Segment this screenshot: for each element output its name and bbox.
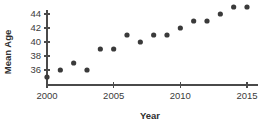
data-point	[191, 18, 196, 23]
y-tick-label: 38	[30, 50, 41, 61]
y-tick-label: 42	[30, 22, 41, 33]
y-axis: 3638404244	[30, 8, 50, 85]
x-tick-label: 2015	[236, 90, 257, 101]
data-point	[84, 67, 89, 72]
x-axis-title: Year	[140, 110, 160, 121]
data-point	[58, 67, 63, 72]
y-tick-label: 44	[30, 8, 41, 19]
data-point	[44, 74, 49, 79]
chart-screenshot: 3638404244 2000200520102015 Mean Age Yea…	[0, 0, 264, 125]
data-point	[138, 39, 143, 44]
x-axis: 2000200520102015	[36, 82, 258, 101]
y-axis-title: Mean Age	[2, 30, 13, 75]
data-point-markers	[44, 4, 249, 79]
x-tick-label: 2010	[170, 90, 191, 101]
data-point	[151, 32, 156, 37]
scatter-plot: 3638404244 2000200520102015 Mean Age Yea…	[0, 0, 264, 125]
data-point	[164, 32, 169, 37]
y-tick-label: 36	[30, 64, 41, 75]
data-point	[231, 4, 236, 9]
data-point	[111, 46, 116, 51]
data-point	[98, 46, 103, 51]
data-point	[204, 18, 209, 23]
x-tick-label: 2005	[103, 90, 124, 101]
data-point	[218, 11, 223, 16]
data-point	[71, 60, 76, 65]
data-point	[178, 25, 183, 30]
y-tick-label: 40	[30, 36, 41, 47]
x-tick-label: 2000	[36, 90, 57, 101]
data-point	[244, 4, 249, 9]
data-point	[124, 32, 129, 37]
